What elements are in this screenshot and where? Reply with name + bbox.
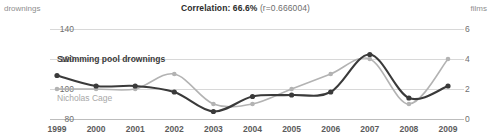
data-point-2007 xyxy=(367,52,372,57)
data-point-2005 xyxy=(289,87,294,92)
spurious-correlation-chart: drownings films Correlation: 66.6% (r=0.… xyxy=(0,0,491,140)
data-point-2004 xyxy=(250,102,255,107)
x-tick-2002: 2002 xyxy=(165,124,184,134)
data-point-2001 xyxy=(133,83,138,88)
data-point-2003 xyxy=(211,109,216,114)
data-point-2008 xyxy=(407,102,412,107)
data-point-2006 xyxy=(328,72,333,77)
data-point-2002 xyxy=(172,72,177,77)
x-tick-2004: 2004 xyxy=(243,124,262,134)
data-point-2000 xyxy=(94,83,99,88)
data-point-2005 xyxy=(289,92,294,97)
x-tick-2008: 2008 xyxy=(399,124,418,134)
data-point-2009 xyxy=(445,83,450,88)
data-point-2006 xyxy=(328,89,333,94)
series-nicholas-cage xyxy=(55,57,451,107)
data-point-2004 xyxy=(250,94,255,99)
x-tick-2003: 2003 xyxy=(204,124,223,134)
x-tick-2009: 2009 xyxy=(439,124,458,134)
x-tick-2001: 2001 xyxy=(126,124,145,134)
x-tick-2007: 2007 xyxy=(360,124,379,134)
data-point-2008 xyxy=(406,95,411,100)
x-tick-2005: 2005 xyxy=(282,124,301,134)
series-label-drownings: Swimming pool drownings xyxy=(57,54,165,64)
data-point-2007 xyxy=(368,57,373,62)
x-tick-1999: 1999 xyxy=(48,124,67,134)
data-point-2003 xyxy=(211,102,216,107)
data-point-2009 xyxy=(446,57,451,62)
plot-area xyxy=(0,0,491,140)
data-point-1999 xyxy=(54,73,59,78)
data-point-1999 xyxy=(55,87,60,92)
series-label-cage: Nicholas Cage xyxy=(57,93,112,103)
x-tick-2000: 2000 xyxy=(87,124,106,134)
series-line xyxy=(57,58,448,107)
x-tick-2006: 2006 xyxy=(321,124,340,134)
data-point-2002 xyxy=(172,89,177,94)
